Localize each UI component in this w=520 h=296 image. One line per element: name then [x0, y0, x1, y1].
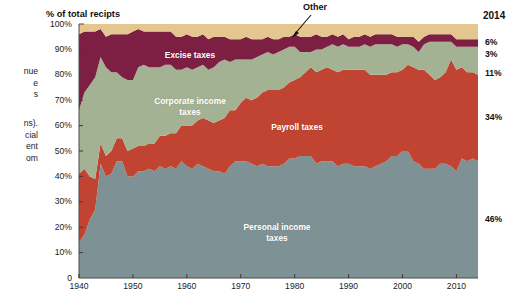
series-label-payroll-taxes: Payroll taxes: [252, 122, 342, 133]
end-value-other: 6%: [485, 37, 515, 47]
series-label-corporate-income-taxes: Corporate income taxes: [135, 96, 245, 117]
x-tick-label-1990: 1990: [329, 281, 369, 291]
y-tick-label-10pct: 10%: [40, 247, 72, 257]
plot-area-svg: [0, 0, 520, 296]
series-label-personal-income-taxes: Personal income taxes: [222, 222, 332, 243]
y-tick-label-30pct: 30%: [40, 196, 72, 206]
series-label-excise-taxes: Excise taxes: [145, 50, 235, 61]
y-tick-label-90pct: 90%: [40, 44, 72, 54]
y-tick-label-20pct: 20%: [40, 222, 72, 232]
x-tick-label-1960: 1960: [167, 281, 207, 291]
y-tick-label-40pct: 40%: [40, 171, 72, 181]
x-tick-label-2000: 2000: [383, 281, 423, 291]
x-tick-label-1980: 1980: [275, 281, 315, 291]
x-tick-label-1950: 1950: [113, 281, 153, 291]
y-tick-label-70pct: 70%: [40, 95, 72, 105]
y-tick-label-80pct: 80%: [40, 69, 72, 79]
y-tick-label-50pct: 50%: [40, 146, 72, 156]
end-value-personal-income-taxes: 46%: [485, 214, 515, 224]
x-tick-label-1970: 1970: [221, 281, 261, 291]
end-value-excise-taxes: 3%: [485, 49, 515, 59]
x-tick-label-1940: 1940: [59, 281, 99, 291]
x-tick-label-2010: 2010: [436, 281, 476, 291]
chart-container: % of total recipts 2014 Other Excise tax…: [0, 0, 520, 296]
y-tick-label-100pct: 100%: [40, 19, 72, 29]
stacked-area-chart-screenshot: s in nue e s ns). cial ent om % of total…: [0, 0, 520, 296]
end-value-payroll-taxes: 34%: [485, 112, 515, 122]
y-tick-label-60pct: 60%: [40, 120, 72, 130]
end-value-corporate-income-taxes: 11%: [485, 68, 515, 78]
